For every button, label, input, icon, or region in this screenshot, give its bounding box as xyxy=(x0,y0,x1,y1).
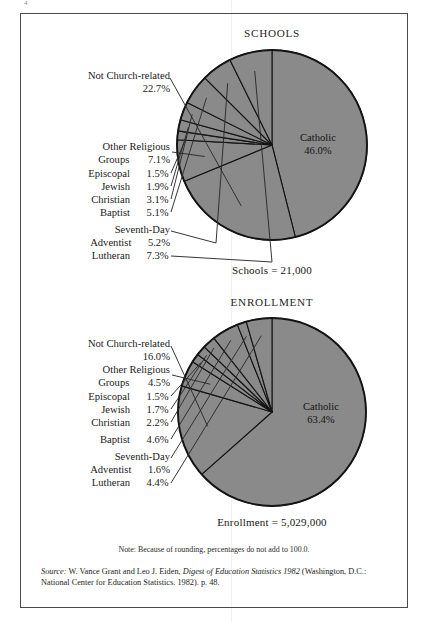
callout-baptist-enrollment-pct: 4.6% xyxy=(133,434,169,447)
figure-source: Source: W. Vance Grant and Leo J. Eiden,… xyxy=(41,566,391,589)
callout-episcopal-enrollment-name: Episcopal xyxy=(70,391,130,404)
callout-baptist-schools-pct: 5.1% xyxy=(133,207,169,220)
source-title: Digest of Education Statistics 1982 xyxy=(183,567,300,576)
callout-lutheran-enrollment-name: Lutheran xyxy=(70,477,130,490)
callout-baptist-schools: Baptist 5.1% xyxy=(70,207,170,220)
callout-christian-enrollment-name: Christian xyxy=(70,417,130,430)
callout-episcopal-schools-name: Episcopal xyxy=(70,168,130,181)
callout-other-religious-groups-enrollment-name: Other Religious xyxy=(52,364,170,377)
callout-baptist-schools-name: Baptist xyxy=(70,207,130,220)
folio-number: 4 xyxy=(24,0,28,7)
callout-seventh-day-adventist-schools-pct: 5.2% xyxy=(134,237,170,250)
callout-other-religious-groups-schools-name: Other Religious xyxy=(52,141,170,154)
callout-lutheran-schools: Lutheran 7.3% xyxy=(70,250,170,263)
callout-not-church-related-enrollment-pct: 16.0% xyxy=(40,351,170,364)
slice-label-catholic-enrollment-pct: 63.4% xyxy=(281,413,361,426)
callout-not-church-related-schools: Not Church-related 22.7% xyxy=(40,70,170,95)
slice-label-catholic-schools-pct: 46.0% xyxy=(278,144,358,157)
source-text-a: W. Vance Grant and Leo J. Eiden, xyxy=(67,567,183,576)
callout-not-church-related-schools-name: Not Church-related xyxy=(40,70,170,83)
callout-seventh-day-adventist-enrollment: Seventh-Day Adventist 1.6% xyxy=(58,451,170,476)
figure-page: 4 SCHOOLS Catholic 46.0% Not Church-rela… xyxy=(0,0,430,622)
callout-seventh-day-adventist-schools-name2: Adventist xyxy=(69,237,131,250)
callout-episcopal-schools-pct: 1.5% xyxy=(133,168,169,181)
callout-lutheran-schools-pct: 7.3% xyxy=(133,250,169,263)
callout-jewish-schools-pct: 1.9% xyxy=(133,181,169,194)
callout-seventh-day-adventist-enrollment-row2: Adventist 1.6% xyxy=(58,464,170,477)
callout-other-religious-groups-enrollment-name2: Groups xyxy=(73,377,129,390)
callout-jewish-enrollment-pct: 1.7% xyxy=(133,404,169,417)
callout-jewish-enrollment-name: Jewish xyxy=(70,404,130,417)
callout-other-religious-groups-schools-pct: 7.1% xyxy=(132,154,170,167)
figure-note: Note: Because of rounding, percentages d… xyxy=(20,545,408,554)
callout-episcopal-schools: Episcopal 1.5% xyxy=(70,168,170,181)
callout-other-religious-groups-schools: Other Religious Groups 7.1% xyxy=(52,141,170,166)
callout-baptist-enrollment: Baptist 4.6% xyxy=(70,434,170,447)
callout-christian-schools-pct: 3.1% xyxy=(133,194,169,207)
callout-lutheran-enrollment-pct: 4.4% xyxy=(133,477,169,490)
callout-not-church-related-enrollment: Not Church-related 16.0% xyxy=(40,338,170,363)
callout-other-religious-groups-schools-name2: Groups xyxy=(73,154,129,167)
callout-lutheran-schools-name: Lutheran xyxy=(70,250,130,263)
callout-other-religious-groups-schools-row2: Groups 7.1% xyxy=(52,154,170,167)
callout-seventh-day-adventist-enrollment-pct: 1.6% xyxy=(134,464,170,477)
callout-seventh-day-adventist-schools-name: Seventh-Day xyxy=(58,224,170,237)
total-label-enrollment: Enrollment = 5,029,000 xyxy=(182,516,362,528)
slice-label-catholic-schools: Catholic 46.0% xyxy=(278,131,358,157)
callout-episcopal-enrollment-pct: 1.5% xyxy=(133,391,169,404)
callout-christian-enrollment-pct: 2.2% xyxy=(133,417,169,430)
source-word: Source: xyxy=(41,567,67,576)
callout-not-church-related-enrollment-name: Not Church-related xyxy=(40,338,170,351)
callout-seventh-day-adventist-enrollment-name: Seventh-Day xyxy=(58,451,170,464)
callout-christian-enrollment: Christian 2.2% xyxy=(70,417,170,430)
callout-other-religious-groups-enrollment-pct: 4.5% xyxy=(132,377,170,390)
callout-seventh-day-adventist-schools: Seventh-Day Adventist 5.2% xyxy=(58,224,170,249)
chart-title-schools: SCHOOLS xyxy=(214,27,330,39)
slice-label-catholic-schools-name: Catholic xyxy=(278,131,358,144)
callout-other-religious-groups-enrollment-row2: Groups 4.5% xyxy=(52,377,170,390)
callout-jewish-schools: Jewish 1.9% xyxy=(70,181,170,194)
callout-jewish-schools-name: Jewish xyxy=(70,181,130,194)
slice-label-catholic-enrollment-name: Catholic xyxy=(281,400,361,413)
callout-baptist-enrollment-name: Baptist xyxy=(70,434,130,447)
callout-episcopal-enrollment: Episcopal 1.5% xyxy=(70,391,170,404)
slice-label-catholic-enrollment: Catholic 63.4% xyxy=(281,400,361,426)
callout-seventh-day-adventist-schools-row2: Adventist 5.2% xyxy=(58,237,170,250)
callout-jewish-enrollment: Jewish 1.7% xyxy=(70,404,170,417)
chart-title-enrollment: ENROLLMENT xyxy=(205,296,339,308)
callout-christian-schools-name: Christian xyxy=(70,194,130,207)
callout-seventh-day-adventist-enrollment-name2: Adventist xyxy=(69,464,131,477)
total-label-schools: Schools = 21,000 xyxy=(192,264,352,276)
callout-other-religious-groups-enrollment: Other Religious Groups 4.5% xyxy=(52,364,170,389)
callout-christian-schools: Christian 3.1% xyxy=(70,194,170,207)
callout-lutheran-enrollment: Lutheran 4.4% xyxy=(70,477,170,490)
callout-not-church-related-schools-pct: 22.7% xyxy=(40,83,170,96)
